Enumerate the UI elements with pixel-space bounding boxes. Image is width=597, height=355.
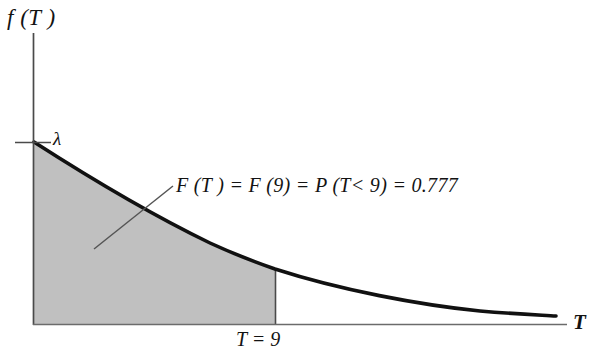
- exponential-density-figure: f (T ) λ F (T ) = F (9) = P (T< 9) = 0.7…: [0, 0, 597, 355]
- cdf-annotation-label: F (T ) = F (9) = P (T< 9) = 0.777: [176, 174, 458, 197]
- x-axis-label: T: [573, 310, 586, 335]
- threshold-value-label: T = 9: [236, 328, 280, 351]
- shaded-probability-area: [34, 142, 275, 324]
- lambda-tick-label: λ: [53, 128, 61, 150]
- y-axis-label: f (T ): [7, 5, 56, 31]
